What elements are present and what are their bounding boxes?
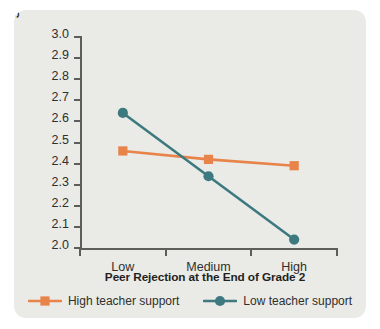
data-point-marker xyxy=(118,108,128,118)
plot-area: 3.02.92.82.72.62.52.42.32.22.12.0 LowMed… xyxy=(80,37,337,248)
y-axis-tick-label: 2.5 xyxy=(52,134,69,147)
y-axis-tick-label: 2.3 xyxy=(52,176,69,189)
x-axis-tick xyxy=(79,248,81,256)
y-axis-tick-label: 2.6 xyxy=(52,112,69,125)
y-axis-tick-label: 2.2 xyxy=(52,197,69,210)
chart-legend: High teacher supportLow teacher support xyxy=(14,294,366,308)
legend-entry[interactable]: High teacher support xyxy=(28,294,179,308)
y-axis-tick-label: 2.4 xyxy=(52,155,69,168)
data-point-marker xyxy=(289,234,299,244)
legend-label: High teacher support xyxy=(68,294,179,308)
data-point-marker xyxy=(204,155,213,164)
data-point-marker xyxy=(118,146,127,155)
data-point-marker xyxy=(290,161,299,170)
legend-swatch-circle-icon xyxy=(203,294,237,308)
y-axis-tick-label: 2.9 xyxy=(52,49,69,62)
x-axis-tick xyxy=(336,248,338,256)
legend-entry[interactable]: Low teacher support xyxy=(203,294,352,308)
y-axis-tick-label: 2.7 xyxy=(52,91,69,104)
x-axis-tick xyxy=(165,248,167,256)
figure-card: Social Self-Concept at the Beginning of … xyxy=(14,10,366,318)
legend-swatch-square-icon xyxy=(28,294,62,308)
x-axis-line xyxy=(80,248,338,250)
y-axis-tick-label: 2.0 xyxy=(52,239,69,252)
data-point-marker xyxy=(203,171,213,181)
series-layer xyxy=(80,37,337,248)
x-axis-tick-label: High xyxy=(281,261,307,274)
y-axis-tick-label: 2.1 xyxy=(52,218,69,231)
y-axis-title: Social Self-Concept at the Beginning of … xyxy=(14,10,38,20)
x-axis-tick-label: Low xyxy=(111,261,134,274)
x-axis-tick xyxy=(250,248,252,256)
x-axis-tick-label: Medium xyxy=(186,261,230,274)
y-axis-tick-label: 2.8 xyxy=(52,70,69,83)
y-axis-tick-label: 3.0 xyxy=(52,28,69,41)
legend-label: Low teacher support xyxy=(243,294,352,308)
